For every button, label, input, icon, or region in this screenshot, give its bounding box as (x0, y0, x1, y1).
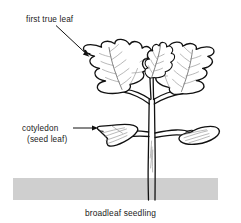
first-true-leaf-callout: first true leaf (26, 15, 90, 57)
diagram-canvas: first true leaf cotyledon (seed leaf) br… (0, 0, 241, 223)
cotyledon-right (155, 126, 219, 144)
seed-leaf-sublabel: (seed leaf) (27, 135, 67, 144)
cotyledon-arrowhead (92, 125, 98, 130)
broadleaf-seedling-diagram: first true leaf cotyledon (seed leaf) br… (0, 0, 241, 223)
soil-line (13, 178, 218, 200)
first-true-leaf-leader-line (56, 26, 87, 55)
first-true-leaf-label: first true leaf (26, 15, 74, 24)
cotyledon-label: cotyledon (22, 124, 59, 133)
cotyledon-left (97, 124, 149, 146)
figure-caption: broadleaf seedling (85, 208, 156, 218)
cotyledon-callout: cotyledon (seed leaf) (22, 124, 98, 144)
